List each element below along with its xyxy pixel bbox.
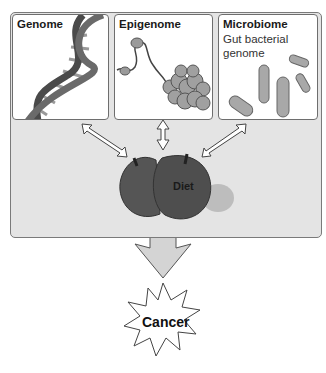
microbiome-diet-arrow bbox=[202, 124, 246, 157]
down-arrow bbox=[135, 238, 191, 278]
genome-diet-arrow bbox=[82, 124, 127, 157]
cancer-label: Cancer bbox=[142, 314, 189, 330]
epigenome-diet-arrow bbox=[157, 120, 169, 150]
diet-label: Diet bbox=[173, 180, 194, 192]
